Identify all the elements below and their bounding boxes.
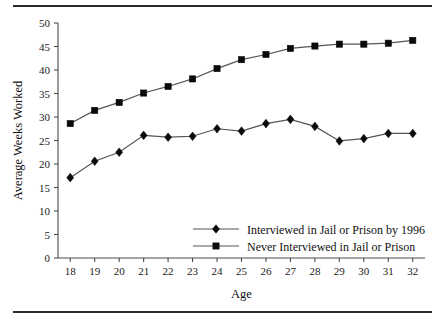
line-chart: 05101520253035404550 1819202122232425262… bbox=[0, 10, 445, 306]
series-1 bbox=[67, 115, 416, 182]
x-tick-label: 26 bbox=[260, 265, 272, 277]
x-tick-label: 18 bbox=[65, 265, 77, 277]
y-axis-title: Average Weeks Worked bbox=[11, 80, 25, 200]
y-axis: 05101520253035404550 bbox=[39, 17, 58, 264]
data-point-marker bbox=[67, 173, 74, 182]
data-point-marker bbox=[214, 124, 221, 133]
data-point-marker bbox=[213, 243, 219, 249]
y-tick-label: 45 bbox=[39, 41, 51, 53]
data-point-marker bbox=[385, 40, 391, 46]
y-tick-label: 35 bbox=[39, 88, 51, 100]
data-point-marker bbox=[336, 137, 343, 146]
figure-container: 05101520253035404550 1819202122232425262… bbox=[0, 0, 445, 320]
data-point-marker bbox=[214, 65, 220, 71]
data-point-marker bbox=[360, 134, 367, 143]
x-tick-label: 19 bbox=[89, 265, 101, 277]
data-point-marker bbox=[409, 129, 416, 138]
y-tick-label: 40 bbox=[39, 64, 51, 76]
y-tick-label: 20 bbox=[39, 158, 51, 170]
series-2 bbox=[67, 37, 416, 126]
data-point-marker bbox=[67, 120, 73, 126]
x-tick-label: 29 bbox=[334, 265, 346, 277]
data-point-marker bbox=[189, 132, 196, 141]
y-tick-label: 30 bbox=[39, 111, 51, 123]
data-point-marker bbox=[287, 45, 293, 51]
x-tick-label: 20 bbox=[114, 265, 126, 277]
data-point-marker bbox=[238, 127, 245, 136]
x-tick-label: 30 bbox=[358, 265, 370, 277]
data-point-marker bbox=[263, 51, 269, 57]
data-series-group bbox=[67, 37, 416, 182]
data-point-marker bbox=[116, 148, 123, 157]
data-point-marker bbox=[165, 133, 172, 142]
y-tick-label: 0 bbox=[45, 252, 51, 264]
data-point-marker bbox=[361, 41, 367, 47]
y-tick-label: 25 bbox=[39, 135, 51, 147]
data-point-marker bbox=[311, 122, 318, 131]
data-point-marker bbox=[91, 157, 98, 166]
x-tick-label: 22 bbox=[163, 265, 174, 277]
x-tick-label: 21 bbox=[138, 265, 149, 277]
top-horizontal-rule bbox=[13, 5, 432, 7]
data-point-marker bbox=[189, 76, 195, 82]
chart-legend: Interviewed in Jail or Prison by 1996Nev… bbox=[193, 223, 425, 254]
data-point-marker bbox=[312, 43, 318, 49]
y-tick-label: 15 bbox=[39, 182, 51, 194]
data-point-marker bbox=[385, 129, 392, 138]
data-point-marker bbox=[287, 115, 294, 124]
data-point-marker bbox=[92, 107, 98, 113]
x-tick-label: 31 bbox=[383, 265, 394, 277]
x-tick-label: 27 bbox=[285, 265, 297, 277]
data-point-marker bbox=[213, 225, 220, 234]
x-tick-label: 24 bbox=[212, 265, 224, 277]
data-point-marker bbox=[238, 57, 244, 63]
x-axis: 181920212223242526272829303132 bbox=[58, 258, 425, 277]
y-tick-label: 50 bbox=[39, 17, 51, 29]
data-point-marker bbox=[336, 41, 342, 47]
data-point-marker bbox=[410, 37, 416, 43]
data-point-marker bbox=[141, 90, 147, 96]
bottom-horizontal-rule bbox=[13, 311, 432, 313]
data-point-marker bbox=[263, 119, 270, 128]
x-tick-label: 28 bbox=[309, 265, 321, 277]
x-axis-title: Age bbox=[231, 287, 252, 301]
legend-label: Never Interviewed in Jail or Prison bbox=[247, 240, 415, 254]
x-tick-label: 25 bbox=[236, 265, 248, 277]
data-point-marker bbox=[165, 83, 171, 89]
legend-item-2: Never Interviewed in Jail or Prison bbox=[193, 240, 415, 254]
x-tick-label: 23 bbox=[187, 265, 199, 277]
data-point-marker bbox=[116, 99, 122, 105]
series-line bbox=[70, 40, 413, 123]
chart-plot-area: 05101520253035404550 1819202122232425262… bbox=[0, 10, 445, 306]
data-point-marker bbox=[140, 131, 147, 140]
legend-label: Interviewed in Jail or Prison by 1996 bbox=[247, 223, 425, 237]
legend-item-1: Interviewed in Jail or Prison by 1996 bbox=[193, 223, 425, 237]
y-tick-label: 5 bbox=[45, 229, 51, 241]
x-tick-label: 32 bbox=[407, 265, 418, 277]
y-tick-label: 10 bbox=[39, 205, 51, 217]
